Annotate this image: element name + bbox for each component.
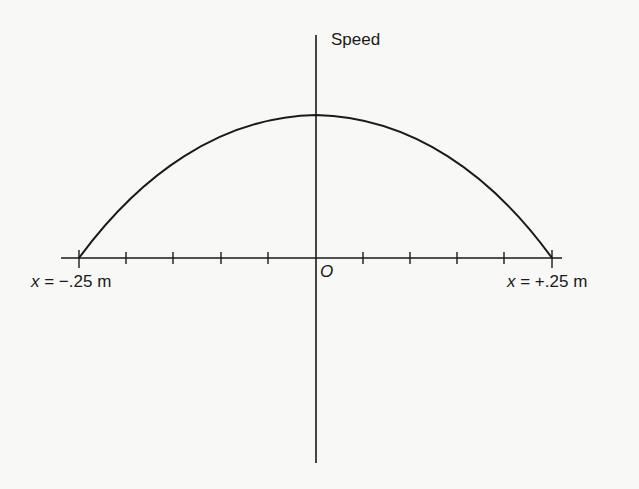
y-axis-label: Speed: [331, 31, 380, 48]
speed-position-diagram: Speed O x = −.25 m x = +.25 m: [0, 0, 639, 489]
left-endpoint-label: x = −.25 m: [31, 273, 111, 290]
right-endpoint-label: x = +.25 m: [507, 273, 587, 290]
origin-label: O: [320, 263, 333, 280]
diagram-canvas: [0, 0, 639, 489]
